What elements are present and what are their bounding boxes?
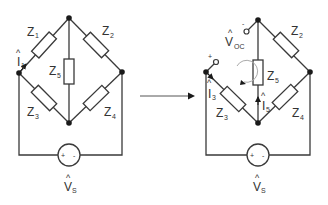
- svg-text:S: S: [72, 187, 77, 194]
- left-circuit: + - Z 1 Z 2 Z 3 Z 4 Z 5 ^ I 1 ^ V S: [16, 15, 125, 194]
- label-voc: V: [225, 35, 233, 49]
- impedance-z3: [31, 85, 56, 110]
- svg-text:1: 1: [35, 32, 39, 39]
- right-circuit: + - - + ^ V OC Z 2 Z 3 Z 4 Z 5 ^ I 3 ^ I…: [203, 17, 313, 194]
- source-plus: +: [61, 152, 65, 159]
- terminal-minus: [244, 29, 249, 34]
- label-vs: V: [253, 180, 261, 194]
- svg-text:OC: OC: [234, 43, 245, 50]
- node-right: [307, 69, 313, 75]
- arrow-head-icon: [188, 93, 195, 100]
- label-z3: Z: [27, 105, 34, 119]
- label-i1: I: [17, 55, 20, 69]
- voc-plus-sign: +: [208, 53, 212, 60]
- label-z4: Z: [104, 105, 111, 119]
- node-bottom: [255, 120, 261, 126]
- label-z3: Z: [216, 106, 223, 120]
- node-left: [16, 70, 22, 76]
- svg-text:5: 5: [57, 72, 61, 79]
- svg-text:3: 3: [212, 94, 216, 101]
- svg-text:5: 5: [275, 77, 279, 84]
- svg-text:S: S: [261, 187, 266, 194]
- impedance-z5: [64, 59, 74, 84]
- impedance-z3: [220, 86, 246, 111]
- label-z5: Z: [267, 69, 274, 83]
- node-left: [203, 69, 209, 75]
- label-z1: Z: [27, 25, 34, 39]
- label-i5: I: [262, 99, 265, 113]
- terminal-plus: [214, 60, 219, 65]
- label-vs: V: [64, 180, 72, 194]
- svg-text:2: 2: [110, 32, 114, 39]
- label-z5: Z: [49, 64, 56, 78]
- svg-text:5: 5: [266, 106, 270, 113]
- circuit-diagram: + - Z 1 Z 2 Z 3 Z 4 Z 5 ^ I 1 ^ V S: [0, 0, 328, 205]
- label-z2: Z: [291, 24, 298, 38]
- svg-text:4: 4: [112, 113, 116, 120]
- node-bottom: [66, 120, 72, 126]
- svg-text:1: 1: [21, 62, 25, 69]
- node-top: [66, 15, 72, 21]
- label-i3: I: [208, 87, 211, 101]
- label-z4: Z: [292, 106, 299, 120]
- svg-text:3: 3: [224, 114, 228, 121]
- node-top: [255, 17, 261, 23]
- svg-text:3: 3: [35, 113, 39, 120]
- voc-minus-sign: -: [242, 20, 245, 27]
- svg-text:2: 2: [299, 32, 303, 39]
- node-right: [119, 69, 125, 75]
- label-z2: Z: [102, 24, 109, 38]
- source-plus: +: [250, 152, 254, 159]
- svg-text:4: 4: [300, 114, 304, 121]
